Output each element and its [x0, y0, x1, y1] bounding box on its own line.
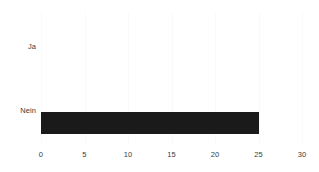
x-tick-label-20: 20: [211, 150, 220, 159]
bar-nein[interactable]: [41, 112, 259, 134]
plot-area: [41, 12, 302, 144]
x-tick-label-0: 0: [39, 150, 43, 159]
x-tick-label-15: 15: [167, 150, 176, 159]
x-tick-label-30: 30: [298, 150, 307, 159]
category-label-nein: Nein: [20, 106, 36, 115]
bar-chart: Ja Nein 0 5 10 15 20 25 30: [0, 0, 319, 172]
x-tick-label-25: 25: [254, 150, 263, 159]
gridline-25: [259, 12, 260, 144]
x-tick-label-10: 10: [124, 150, 133, 159]
gridline-30: [302, 12, 303, 144]
category-label-ja: Ja: [28, 42, 36, 51]
x-tick-label-5: 5: [82, 150, 86, 159]
